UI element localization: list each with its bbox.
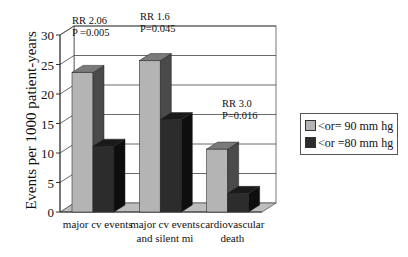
legend-label-90: <or= 90 mm hg: [318, 119, 393, 133]
bar-front: [139, 61, 160, 212]
x-category-label: death: [220, 232, 244, 244]
bar-front: [93, 146, 114, 212]
x-category-label: major cv events: [130, 218, 200, 230]
rr-annotation: P=0.045: [140, 23, 175, 34]
legend: <or= 90 mm hg <or =80 mm hg: [300, 113, 398, 155]
bar-front: [160, 120, 181, 212]
y-tick-label: 15: [41, 117, 54, 132]
rr-annotation: RR 3.0: [222, 98, 252, 109]
y-tick-label: 10: [41, 146, 54, 161]
bar-front: [228, 193, 249, 212]
legend-item-90: <or= 90 mm hg: [305, 119, 393, 133]
rr-annotation: RR 1.6: [140, 11, 170, 22]
y-tick-label: 25: [41, 58, 54, 73]
rr-annotation: RR 2.06: [72, 15, 107, 26]
y-tick-label: 30: [41, 28, 54, 43]
legend-swatch-dark: [305, 137, 316, 148]
y-tick-label: 5: [48, 176, 55, 191]
bar-side: [181, 113, 192, 212]
x-category-label: cardiovascular: [200, 218, 264, 230]
bar-side: [114, 139, 125, 212]
legend-label-80: <or =80 mm hg: [318, 136, 393, 150]
bar-front: [72, 72, 93, 212]
rr-annotation: P=0.016: [222, 110, 257, 121]
legend-item-80: <or =80 mm hg: [305, 136, 393, 150]
bar-front: [207, 149, 228, 212]
y-tick-label: 0: [48, 205, 55, 220]
y-tick-label: 20: [41, 87, 54, 102]
y-axis-label: Events per 1000 patient-years: [23, 26, 40, 216]
x-category-label: major cv events: [63, 218, 133, 230]
rr-annotation: P =0.005: [72, 27, 110, 38]
legend-swatch-light: [305, 120, 316, 131]
x-category-label: and silent mi: [137, 232, 194, 244]
